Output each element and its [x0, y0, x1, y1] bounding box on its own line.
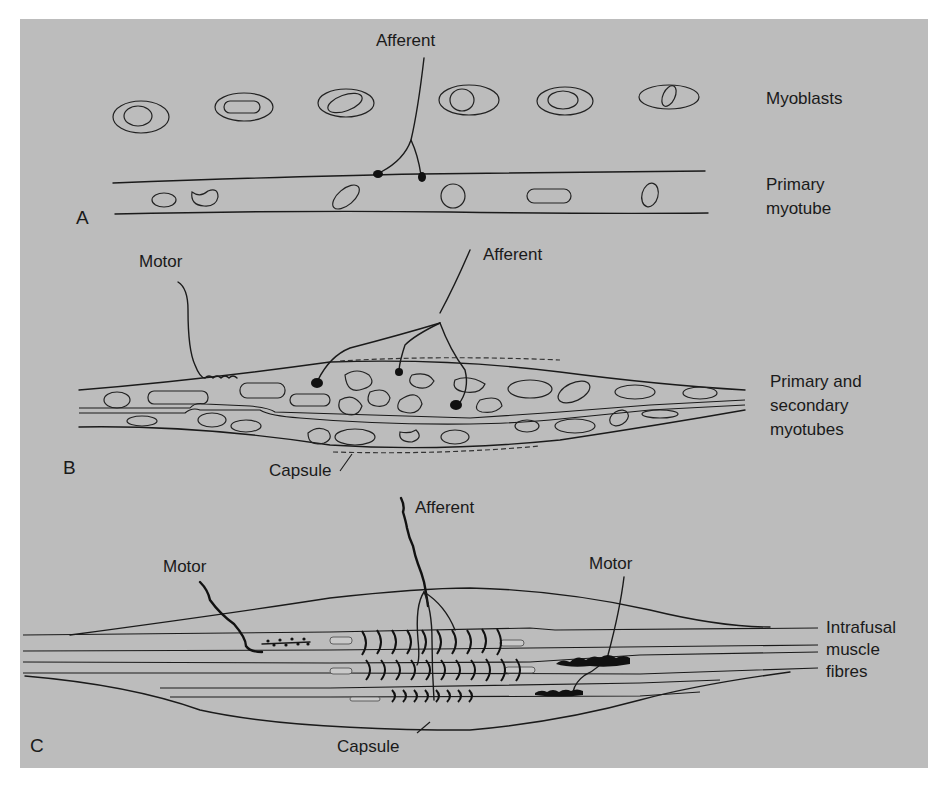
primary-myotube-label-line1: Primary [766, 175, 825, 194]
panel-c-motor-left-label: Motor [163, 557, 207, 576]
afferent-ending [418, 172, 426, 182]
fibres-label-line3: fibres [826, 662, 868, 681]
panel-b-capsule-label: Capsule [269, 461, 331, 480]
afferent-ending [311, 378, 323, 388]
panel-c-capsule-label: Capsule [337, 737, 399, 756]
panel-a-afferent-label: Afferent [376, 31, 436, 50]
panel-b-letter: B [63, 457, 76, 478]
myotubes-label-line1: Primary and [770, 372, 862, 391]
myoblasts-label: Myoblasts [766, 89, 843, 108]
panel-b-afferent-label: Afferent [483, 245, 543, 264]
panel-c-motor-right-label: Motor [589, 554, 633, 573]
myotubes-label-line2: secondary [770, 396, 849, 415]
panel-c-afferent-label: Afferent [415, 498, 475, 517]
panel-c-letter: C [30, 735, 44, 756]
fibres-label-line2: muscle [826, 640, 880, 659]
fibres-label-line1: Intrafusal [826, 618, 896, 637]
afferent-ending [395, 368, 403, 376]
afferent-ending [450, 400, 462, 410]
primary-myotube-label-line2: myotube [766, 199, 831, 218]
afferent-ending [373, 170, 383, 178]
panel-b-motor-label: Motor [139, 252, 183, 271]
figure-background [20, 19, 928, 768]
muscle-spindle-development-figure: A Afferent Myoblasts Primary myotube [0, 0, 941, 790]
myotubes-label-line3: myotubes [770, 420, 844, 439]
panel-a-letter: A [76, 207, 89, 228]
